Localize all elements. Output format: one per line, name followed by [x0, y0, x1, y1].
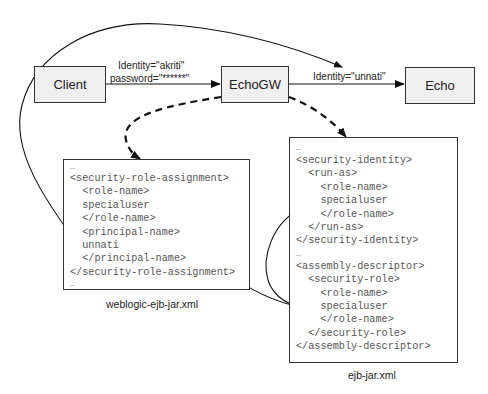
xml-line: </security-role-assignment>	[70, 266, 249, 279]
ejb-xml-box: … <security-identity> <run-as> <role-nam…	[289, 137, 458, 363]
echogw-identity-label: Identity="unnati"	[313, 71, 385, 83]
echo-label: Echo	[425, 78, 455, 93]
xml-line: <role-name>	[296, 287, 457, 300]
weblogic-caption: weblogic-ejb-jar.xml	[106, 298, 198, 310]
client-node: Client	[34, 66, 106, 103]
echo-node: Echo	[405, 67, 475, 104]
xml-line: </security-role>	[296, 327, 457, 340]
xml-line: <security-identity>	[296, 154, 457, 167]
xml-line: <role-name>	[296, 181, 457, 194]
xml-line: </role-name>	[70, 212, 249, 225]
xml-line: </assembly-descriptor>	[296, 340, 457, 353]
xml-line: specialuser	[296, 194, 457, 207]
xml-line: </run-as>	[296, 221, 457, 234]
client-identity-label: Identity="akriti"	[118, 60, 184, 72]
ejb-caption: ejb-jar.xml	[348, 369, 396, 381]
xml-line: </security-identity>	[296, 234, 457, 247]
client-label: Client	[53, 77, 86, 92]
client-password-label: password="******"	[110, 73, 189, 85]
xml-line: <security-role-assignment>	[70, 172, 249, 185]
xml-line: <run-as>	[296, 167, 457, 180]
edge-echogw-to-ejb-dashed	[289, 97, 346, 137]
xml-line: </role-name>	[296, 208, 457, 221]
xml-line: </role-name>	[296, 313, 457, 326]
edge-echogw-to-weblogic-dashed	[126, 97, 221, 159]
xml-line: <assembly-descriptor>	[296, 260, 457, 273]
echogw-node: EchoGW	[221, 66, 289, 103]
xml-line: …	[70, 162, 249, 172]
xml-line: …	[70, 279, 249, 289]
echogw-label: EchoGW	[229, 77, 281, 92]
xml-line: unnati	[70, 239, 249, 252]
xml-line: <security-role>	[296, 273, 457, 286]
xml-line: <principal-name>	[70, 226, 249, 239]
weblogic-xml-box: … <security-role-assignment> <role-name>…	[63, 159, 250, 290]
xml-line: </principal-name>	[70, 252, 249, 265]
xml-line: <role-name>	[70, 185, 249, 198]
xml-line: specialuser	[70, 199, 249, 212]
xml-line: …	[296, 248, 457, 260]
xml-line: specialuser	[296, 300, 457, 313]
xml-line: …	[296, 142, 457, 154]
